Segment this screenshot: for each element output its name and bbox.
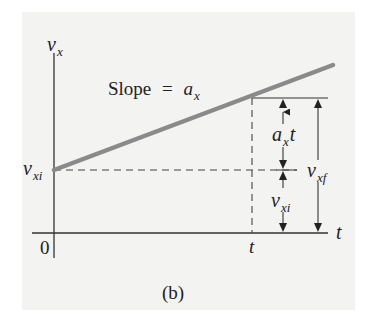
axt-suffix: t: [290, 123, 296, 145]
vxf-symbol: v: [307, 159, 316, 181]
y-axis-label: vx: [47, 34, 63, 54]
slope-annotation: Slope = ax: [108, 79, 200, 98]
vxf-label: vxf: [307, 160, 326, 180]
vxi-arrowhead-top: [279, 171, 287, 180]
vxi-left-symbol: v: [23, 157, 32, 179]
axt-subscript: x: [283, 134, 289, 149]
vxf-arrowhead-bottom: [314, 223, 322, 232]
vxi-left-subscript: xi: [33, 168, 42, 183]
t-tick-label: t: [249, 237, 254, 256]
slope-symbol: a: [184, 78, 194, 99]
vxf-subscript: xf: [317, 170, 326, 185]
axt-arrowhead-top: [279, 99, 287, 108]
vxi-right-label: vxi: [271, 190, 290, 210]
axt-arrowhead-bottom: [279, 160, 287, 169]
vxi-right-subscript: xi: [281, 200, 290, 215]
vxi-arrowhead-bottom: [279, 223, 287, 232]
vxi-left-label: vxi: [23, 158, 42, 178]
y-axis-symbol: v: [47, 33, 56, 55]
axt-label: axt: [272, 124, 295, 144]
origin-label: 0: [40, 238, 50, 257]
slope-subscript: x: [194, 88, 200, 103]
vxf-arrowhead-top: [314, 99, 322, 108]
axt-symbol: a: [272, 123, 282, 145]
vxi-right-symbol: v: [271, 189, 280, 211]
slope-text: Slope: [108, 78, 151, 99]
x-axis-label: t: [336, 222, 342, 242]
y-axis-subscript: x: [57, 44, 63, 59]
panel-label: (b): [162, 283, 184, 302]
slope-equals: =: [162, 78, 173, 99]
